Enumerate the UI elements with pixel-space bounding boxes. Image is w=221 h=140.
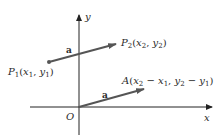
svg-text:A(x2 − x1, y2 − y1): A(x2 − x1, y2 − y1) [121, 75, 213, 88]
svg-text:P1(x1, y1): P1(x1, y1) [7, 66, 54, 79]
x-axis-label: x [204, 112, 210, 123]
origin-label: O [66, 111, 74, 122]
point-p1-label: P1(x1, y1) [7, 66, 54, 79]
vector-a-origin [79, 89, 144, 107]
point-p1 [47, 60, 51, 64]
point-a-label: A(x2 − x1, y2 − y1) [121, 75, 213, 88]
vector-diagram: y x O a a P1(x1, y1) P2(x2, y2) A(x2 − x… [0, 0, 221, 140]
vector-a-p1-p2 [49, 44, 116, 62]
point-p2-label: P2(x2, y2) [120, 37, 167, 50]
vector-a-label-bottom: a [102, 90, 108, 100]
vector-a-label-top: a [66, 45, 72, 55]
y-axis-label: y [84, 11, 91, 22]
svg-text:P2(x2, y2): P2(x2, y2) [120, 37, 167, 50]
